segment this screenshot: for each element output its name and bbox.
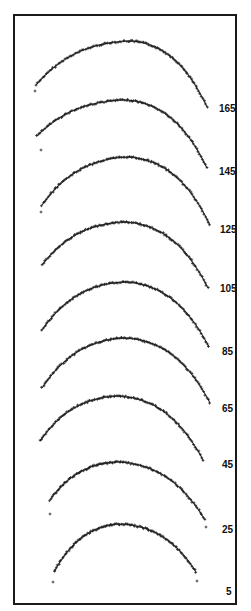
- profile-chart: 165145125105856545255: [0, 0, 251, 611]
- curve-label: 85: [222, 346, 234, 357]
- plus-marker: [64, 360, 67, 363]
- plus-marker: [50, 317, 53, 320]
- plus-marker: [120, 523, 123, 526]
- curve-group: 165145125105856545255: [34, 39, 238, 597]
- plus-marker: [40, 149, 43, 152]
- fitted-curve: [42, 338, 210, 403]
- plus-marker: [62, 362, 65, 365]
- plus-marker: [207, 345, 210, 348]
- plus-marker: [40, 211, 43, 214]
- curve-label: 165: [219, 103, 236, 114]
- curve-125: 125: [40, 155, 238, 235]
- plus-marker: [191, 372, 194, 375]
- plus-marker: [196, 580, 199, 583]
- curve-label: 45: [222, 459, 234, 470]
- curve-label: 25: [222, 524, 234, 535]
- fitted-curve: [36, 41, 207, 107]
- curve-25: 25: [48, 460, 233, 535]
- curve-label: 65: [222, 403, 234, 414]
- plus-marker: [120, 337, 123, 340]
- plus-marker: [202, 459, 205, 462]
- plus-marker: [36, 81, 39, 84]
- plus-marker: [34, 90, 37, 93]
- curve-65: 65: [40, 336, 234, 414]
- plus-marker: [105, 283, 108, 286]
- plus-marker: [194, 571, 197, 574]
- fitted-curve: [40, 396, 203, 460]
- curve-label: 125: [220, 224, 237, 235]
- plus-marker: [179, 486, 182, 489]
- plus-marker: [182, 248, 185, 251]
- plus-marker: [208, 402, 211, 405]
- curve-5: 5: [52, 522, 232, 597]
- plus-marker: [178, 425, 181, 428]
- plus-marker: [49, 513, 52, 516]
- plus-marker: [52, 581, 55, 584]
- plus-marker: [35, 134, 38, 137]
- curve-label: 145: [219, 166, 236, 177]
- curve-label: 5: [226, 586, 232, 597]
- plus-marker: [130, 396, 133, 399]
- curve-label: 105: [220, 283, 237, 294]
- plus-marker: [205, 526, 208, 529]
- curve-165: 165: [34, 39, 237, 114]
- curve-85: 85: [40, 280, 233, 357]
- curve-45: 45: [39, 394, 234, 470]
- fitted-curve: [54, 524, 196, 572]
- fitted-curve: [42, 157, 210, 225]
- curve-145: 145: [35, 98, 236, 177]
- fitted-curve: [42, 222, 208, 288]
